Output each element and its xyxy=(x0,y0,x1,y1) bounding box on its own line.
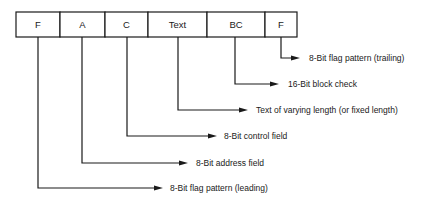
field-label: F xyxy=(35,19,41,30)
callout-address: 8-Bit address field xyxy=(82,37,264,168)
arrow-right-icon xyxy=(239,108,248,113)
callout-label: 16-Bit block check xyxy=(288,79,358,89)
arrow-right-icon xyxy=(179,161,188,166)
arrow-right-icon xyxy=(291,56,300,61)
arrow-right-icon xyxy=(208,134,217,139)
frame-fields: FACTextBCF xyxy=(16,12,297,37)
arrow-right-icon xyxy=(154,186,163,191)
arrow-right-icon xyxy=(270,82,279,87)
field-label: C xyxy=(123,19,130,30)
field-label: F xyxy=(278,19,284,30)
leader-line xyxy=(235,37,272,84)
field-text: Text xyxy=(148,12,207,37)
field-label: Text xyxy=(169,19,187,30)
callout-label: 8-Bit address field xyxy=(196,158,264,168)
callout-flag-trailing: 8-Bit flag pattern (trailing) xyxy=(281,37,405,63)
leader-line xyxy=(281,37,293,58)
callout-label: Text of varying length (or fixed length) xyxy=(256,105,398,115)
field-address: A xyxy=(60,12,105,37)
leader-line xyxy=(127,37,210,136)
field-block-check: BC xyxy=(207,12,265,37)
callout-text: Text of varying length (or fixed length) xyxy=(178,37,398,115)
callout-flag-leading: 8-Bit flag pattern (leading) xyxy=(38,37,268,193)
leader-line xyxy=(38,37,156,188)
field-label: BC xyxy=(229,19,242,30)
leader-line xyxy=(178,37,241,110)
hdlc-frame-diagram: FACTextBCF 8-Bit flag pattern (trailing)… xyxy=(0,0,431,201)
field-callouts: 8-Bit flag pattern (trailing)16-Bit bloc… xyxy=(38,37,405,193)
field-flag-leading: F xyxy=(16,12,60,37)
field-flag-trailing: F xyxy=(265,12,297,37)
callout-block-check: 16-Bit block check xyxy=(235,37,358,89)
leader-line xyxy=(82,37,181,163)
field-control: C xyxy=(105,12,148,37)
field-label: A xyxy=(79,19,86,30)
callout-label: 8-Bit flag pattern (trailing) xyxy=(309,53,405,63)
callout-label: 8-Bit control field xyxy=(224,131,288,141)
callout-label: 8-Bit flag pattern (leading) xyxy=(170,183,268,193)
callout-control: 8-Bit control field xyxy=(127,37,288,141)
